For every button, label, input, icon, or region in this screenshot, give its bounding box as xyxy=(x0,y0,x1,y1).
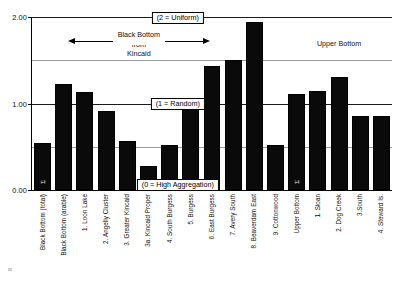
bar-column xyxy=(267,17,284,190)
x-axis-label: 2. Dog Creek xyxy=(335,194,342,232)
bar xyxy=(119,141,136,190)
x-axis-label: 3.South xyxy=(356,194,363,216)
annotation-random: (1 = Random) xyxy=(151,98,205,110)
x-axis-label-slot: 2. Dog Creek xyxy=(330,192,347,282)
x-axis-label: 3a. Kincaid Proper xyxy=(144,194,151,247)
scan-artifact xyxy=(8,268,12,271)
arrow-label-gap xyxy=(113,38,165,45)
x-axis-label: Black Bottom (arable) xyxy=(59,194,66,256)
x-axis-label: 3. Greater Kincaid xyxy=(123,194,130,246)
x-axis-label: 8. Beaverdam East xyxy=(250,194,257,248)
x-axis-label: 9. Cottonwood xyxy=(271,194,278,235)
bar xyxy=(267,145,284,190)
group-label-line3: Kincaid xyxy=(127,49,151,58)
x-axis-label-slot: 3a. Kincaid Proper xyxy=(139,192,156,282)
x-axis-label: 1. Sloan xyxy=(313,194,320,218)
x-axis-label: 4. Steward Is. xyxy=(377,194,384,233)
y-tick-label: 1.00 xyxy=(12,99,27,108)
bar-summary-marker: Σ xyxy=(40,180,46,184)
x-axis-label: Black Bottom (total) xyxy=(38,194,45,250)
y-tick-label: 2.00 xyxy=(12,13,27,22)
annotation-uniform: (2 = Uniform) xyxy=(152,12,204,24)
arrow-head-left-icon xyxy=(68,38,75,44)
x-axis-label-slot: 8. Beaverdam East xyxy=(245,192,262,282)
bar xyxy=(76,92,93,190)
y-tick-mark xyxy=(28,190,32,191)
x-axis-label-slot: 2. Angelly Cluster xyxy=(97,192,114,282)
x-axis-label-slot: 3. Greater Kincaid xyxy=(118,192,135,282)
x-axis-label-slot: 4. Steward Is. xyxy=(372,192,389,282)
x-axis-label: 7. Avery South xyxy=(229,194,236,236)
x-axis-label-slot: 1. Sloan xyxy=(308,192,325,282)
bar-column xyxy=(246,17,263,190)
group-span-arrow xyxy=(68,41,210,42)
bar xyxy=(55,84,72,190)
bar-summary-marker: Σ xyxy=(294,180,300,184)
bar xyxy=(246,22,263,190)
chart-figure: 0.001.002.00 ΣΣ (2 = Uniform) (1 = Rando… xyxy=(0,0,405,283)
annotation-high-aggregation: (0 = High Aggregation) xyxy=(137,179,219,191)
bar xyxy=(373,116,390,190)
x-axis-label: Upper Bottom xyxy=(292,194,299,233)
bar xyxy=(352,116,369,190)
bar xyxy=(182,104,199,191)
bar-column xyxy=(76,17,93,190)
x-axis-label: 4. South Burgess xyxy=(165,194,172,243)
bar xyxy=(204,66,221,190)
x-axis-label: 1. Loon Lake xyxy=(80,194,87,231)
x-axis-label-slot: 7. Avery South xyxy=(224,192,241,282)
x-axis-label: 5. Burgess xyxy=(186,194,193,225)
bar-column: Σ xyxy=(288,17,305,190)
bar xyxy=(98,111,115,190)
x-axis-label-slot: 4. South Burgess xyxy=(160,192,177,282)
bar xyxy=(225,60,242,190)
plot-area: 0.001.002.00 ΣΣ (2 = Uniform) (1 = Rando… xyxy=(31,17,392,191)
x-axis-label-slot: 1. Loon Lake xyxy=(75,192,92,282)
bar: Σ xyxy=(34,143,51,190)
x-axis-label: 6. East Burgess xyxy=(207,194,214,239)
bar-column: Σ xyxy=(34,17,51,190)
bar-column xyxy=(373,17,390,190)
x-axis-label-slot: 9. Cottonwood xyxy=(266,192,283,282)
x-axis-label-slot: 5. Burgess xyxy=(181,192,198,282)
x-axis-label-slot: Black Bottom (arable) xyxy=(54,192,71,282)
x-axis-label-slot: Upper Bottom xyxy=(287,192,304,282)
x-axis-label: 2. Angelly Cluster xyxy=(102,194,109,244)
x-axis-labels: Black Bottom (total)Black Bottom (arable… xyxy=(31,192,391,282)
bar-column xyxy=(225,17,242,190)
x-axis-label-slot: Black Bottom (total) xyxy=(33,192,50,282)
x-axis-label-slot: 3.South xyxy=(351,192,368,282)
arrow-head-right-icon xyxy=(203,38,210,44)
bar xyxy=(309,91,326,190)
bar xyxy=(331,77,348,190)
bar: Σ xyxy=(288,94,305,190)
y-tick-label: 0.00 xyxy=(12,186,27,195)
group-label-upper-bottom: Upper Bottom xyxy=(317,39,361,49)
x-axis-label-slot: 6. East Burgess xyxy=(203,192,220,282)
